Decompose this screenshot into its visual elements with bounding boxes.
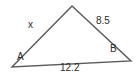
- side-label-x: x: [28, 20, 33, 30]
- vertex-label-a: A: [17, 52, 24, 62]
- vertex-label-b: B: [110, 44, 117, 54]
- triangle-shape: [12, 6, 131, 67]
- triangle-figure: x 8.5 12.2 A B: [0, 0, 138, 78]
- side-label-right: 8.5: [96, 16, 110, 26]
- side-label-base: 12.2: [60, 63, 79, 73]
